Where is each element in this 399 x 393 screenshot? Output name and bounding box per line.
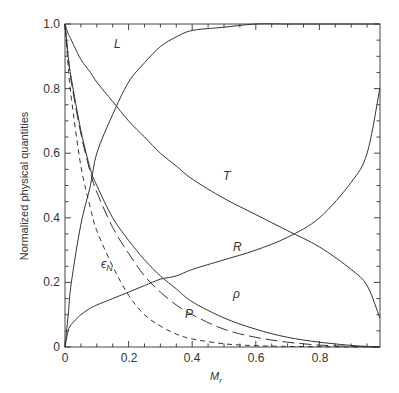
y-tick-label: 0.2 [43, 275, 60, 289]
curve-label-P: P [185, 307, 193, 321]
y-tick-label: 0 [53, 340, 60, 354]
x-tick-label: 0.8 [312, 351, 329, 365]
x-tick-label: 0.4 [184, 351, 201, 365]
x-axis-title-sub: r [219, 376, 222, 385]
y-axis-title: Normalized physical quantities [18, 111, 30, 260]
curve-label-epsilon-sub: N [106, 263, 113, 273]
x-tick-label: 0.2 [121, 351, 138, 365]
curve-label-epsilon: ϵN [101, 257, 113, 273]
x-tick-label: 0.6 [248, 351, 265, 365]
curve-label-R: R [233, 240, 242, 254]
chart: 0 0.2 0.4 0.6 0.8 1.0 0 0.2 0.4 0.6 0.8 … [0, 0, 399, 393]
y-tick-label: 0.8 [43, 82, 60, 96]
y-tick-label: 0.4 [43, 211, 60, 225]
curve-label-L: L [114, 37, 121, 51]
x-tick-label: 0 [62, 351, 69, 365]
curve-label-rho: ρ [232, 287, 240, 301]
y-tick-label: 1.0 [43, 17, 60, 31]
y-tick-label: 0.6 [43, 146, 60, 160]
curve-label-T: T [223, 169, 232, 183]
x-axis-title: Mr [210, 370, 222, 385]
curves [65, 24, 380, 347]
